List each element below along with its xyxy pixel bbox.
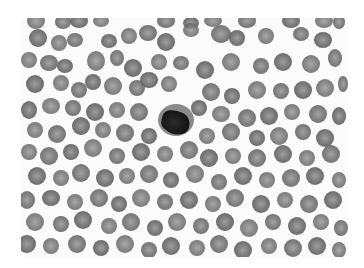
red-blood-cell	[316, 129, 334, 147]
red-blood-cell	[51, 35, 67, 51]
red-blood-cell	[157, 146, 173, 162]
red-blood-cell	[293, 27, 309, 41]
red-blood-cell	[90, 189, 108, 207]
red-blood-cell	[238, 18, 256, 28]
red-blood-cell	[21, 191, 35, 209]
red-blood-cell	[334, 220, 348, 236]
red-blood-cell	[332, 172, 346, 188]
red-blood-cell	[53, 75, 69, 91]
red-blood-cell	[85, 74, 101, 90]
red-blood-cell	[222, 53, 240, 71]
red-blood-cell	[252, 195, 270, 213]
red-blood-cell	[140, 165, 158, 183]
red-blood-cell	[277, 192, 293, 208]
red-blood-cell	[308, 237, 326, 255]
red-blood-cell	[122, 213, 140, 231]
red-blood-cell	[322, 145, 340, 163]
red-blood-cell	[260, 107, 278, 125]
red-blood-cell	[157, 194, 173, 210]
red-blood-cell	[139, 25, 157, 41]
red-blood-cell	[240, 219, 258, 237]
red-blood-cell	[141, 128, 157, 144]
red-blood-cell	[95, 122, 111, 138]
red-blood-cell	[196, 61, 214, 79]
red-blood-cell	[72, 117, 90, 135]
red-blood-cell	[338, 76, 348, 92]
red-blood-cell	[42, 98, 60, 114]
red-blood-cell	[43, 238, 59, 254]
red-blood-cell	[67, 194, 83, 210]
blood-smear-micrograph	[21, 18, 348, 257]
red-blood-cell	[314, 32, 332, 48]
red-blood-cell	[132, 189, 150, 207]
red-blood-cell	[316, 79, 334, 97]
red-blood-cell	[212, 106, 230, 122]
red-blood-cell	[284, 239, 302, 257]
red-blood-cell	[270, 127, 288, 145]
red-blood-cell	[21, 144, 37, 160]
red-blood-cell	[328, 49, 342, 67]
red-blood-cell	[306, 167, 324, 185]
red-blood-cell	[261, 238, 277, 254]
red-blood-cell	[86, 103, 104, 121]
red-blood-cell	[116, 124, 134, 142]
red-blood-cell	[109, 102, 125, 118]
red-blood-cell	[116, 235, 134, 253]
white-blood-cell	[158, 104, 194, 136]
red-blood-cell	[248, 149, 266, 167]
red-blood-cell	[225, 148, 241, 164]
red-blood-cell	[180, 141, 198, 159]
red-blood-cell	[333, 18, 345, 29]
red-blood-cell	[84, 139, 102, 157]
red-blood-cell	[234, 241, 252, 257]
red-blood-cell	[101, 218, 117, 234]
red-blood-cell	[57, 59, 73, 73]
red-blood-cell	[71, 82, 87, 98]
red-blood-cell	[202, 83, 220, 101]
red-blood-cell	[65, 100, 81, 116]
red-blood-cell	[248, 81, 266, 99]
red-blood-cell	[273, 83, 289, 99]
red-blood-cell	[26, 75, 44, 93]
red-blood-cell	[332, 242, 346, 257]
red-blood-cell	[302, 55, 320, 73]
red-blood-cell	[211, 25, 231, 43]
red-blood-cell	[161, 76, 177, 92]
red-blood-cell	[111, 196, 127, 212]
red-blood-cell	[193, 218, 209, 234]
red-blood-cell	[21, 235, 36, 253]
red-blood-cell	[141, 242, 157, 257]
red-blood-cell	[324, 191, 342, 209]
red-blood-cell	[40, 55, 58, 71]
red-blood-cell	[216, 213, 234, 231]
red-blood-cell	[258, 28, 274, 44]
red-blood-cell	[63, 144, 79, 160]
red-blood-cell	[53, 216, 69, 232]
cell-field	[21, 18, 348, 257]
red-blood-cell	[29, 29, 47, 47]
red-blood-cell	[253, 58, 269, 74]
red-blood-cell	[93, 240, 109, 256]
red-blood-cell	[315, 18, 333, 28]
red-blood-cell	[224, 88, 240, 104]
red-blood-cell	[132, 143, 150, 161]
red-blood-cell	[163, 172, 179, 188]
red-blood-cell	[26, 213, 44, 231]
red-blood-cell	[210, 235, 228, 253]
red-blood-cell	[238, 109, 256, 127]
red-blood-cell	[274, 145, 292, 163]
red-blood-cell	[21, 52, 37, 68]
red-blood-cell	[205, 196, 221, 212]
red-blood-cell	[191, 100, 207, 116]
red-blood-cell	[294, 81, 312, 99]
red-blood-cell	[299, 150, 315, 166]
red-blood-cell	[173, 56, 189, 70]
red-blood-cell	[151, 54, 167, 70]
red-blood-cell	[274, 53, 292, 71]
red-blood-cell	[130, 103, 148, 121]
red-blood-cell	[309, 105, 327, 123]
red-blood-cell	[53, 170, 69, 186]
red-blood-cell	[109, 148, 125, 164]
red-blood-cell	[96, 169, 114, 187]
red-blood-cell	[183, 23, 199, 37]
